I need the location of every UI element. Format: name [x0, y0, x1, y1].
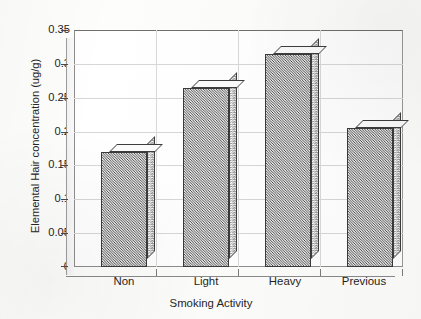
x-axis-title: Smoking Activity: [96, 297, 326, 309]
plot-left-depth-wall: [66, 38, 74, 275]
y-tick-mark: [61, 132, 68, 133]
x-tick-mark: [320, 269, 321, 276]
x-tick-mark: [156, 269, 157, 276]
bar-heavy: [265, 54, 311, 267]
bar-side-face: [229, 72, 237, 259]
y-tick-mark: [61, 165, 68, 166]
y-tick-mark: [61, 266, 68, 267]
bar-previous: [347, 128, 393, 267]
y-tick-mark: [61, 30, 68, 31]
y-tick-mark: [61, 233, 68, 234]
bar-side-face: [311, 38, 319, 259]
x-tick-label-heavy: Heavy: [269, 275, 301, 287]
y-axis-tick-labels: 0.35 0.3 0.25 0.2 0.15 0.1 0.05 0: [26, 0, 70, 319]
x-tick-label-previous: Previous: [342, 275, 386, 287]
bar-front-face: [101, 152, 147, 267]
bar-front-face: [265, 54, 311, 267]
bar-top-face: [109, 144, 163, 152]
x-tick-mark: [402, 269, 403, 276]
y-tick-mark: [61, 199, 68, 200]
plot-area: [74, 30, 403, 267]
bar-non: [101, 152, 147, 267]
bar-front-face: [347, 128, 393, 267]
y-tick-mark: [61, 98, 68, 99]
bar-chart-figure: Elemental Hair concentration (ug/g) 0.35…: [0, 0, 421, 319]
bar-side-face: [147, 136, 155, 259]
gridline-vertical: [238, 30, 239, 267]
bar-top-face: [191, 80, 245, 88]
bar-front-face: [183, 88, 229, 267]
gridline-vertical: [320, 30, 321, 267]
bar-top-face: [273, 46, 327, 54]
x-tick-label-non: Non: [114, 275, 135, 287]
x-tick-mark: [238, 269, 239, 276]
bar-light: [183, 88, 229, 267]
bar-top-face: [355, 120, 409, 128]
y-tick-mark: [61, 64, 68, 65]
x-tick-label-light: Light: [194, 275, 219, 287]
bar-side-face: [393, 112, 401, 259]
